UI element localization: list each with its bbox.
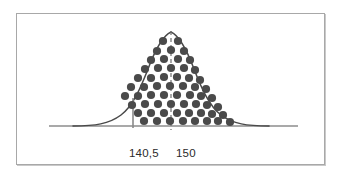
dot [147, 74, 155, 82]
dot [160, 73, 168, 81]
dot [167, 46, 175, 54]
dot [141, 65, 149, 73]
dot [186, 91, 194, 99]
x-tick-label-150: 150 [176, 147, 196, 159]
dot [159, 37, 167, 45]
figure-frame: 140,5 150 [16, 13, 325, 165]
dot [128, 101, 136, 109]
dot [180, 47, 188, 55]
x-tick-label-140-5: 140,5 [129, 147, 159, 159]
dot [214, 117, 222, 125]
dot [140, 83, 148, 91]
dot [208, 110, 216, 118]
dot [154, 100, 162, 108]
dot [174, 55, 182, 63]
dot [197, 109, 205, 117]
dot [173, 73, 181, 81]
dot [180, 100, 188, 108]
dot [191, 117, 199, 125]
dot [134, 92, 142, 100]
dot [153, 82, 161, 90]
dot [173, 109, 181, 117]
dot [127, 83, 135, 91]
dot [192, 100, 200, 108]
figure-root: 140,5 150 [0, 0, 341, 176]
dot [191, 66, 199, 74]
dot [134, 109, 142, 117]
dot [196, 76, 204, 84]
dot [226, 118, 234, 126]
dot [160, 91, 168, 99]
dot [154, 64, 162, 72]
dot [203, 117, 211, 125]
dot [160, 109, 168, 117]
dot [166, 82, 174, 90]
dot [134, 74, 142, 82]
dot [147, 91, 155, 99]
dot [214, 103, 222, 111]
dot [167, 100, 175, 108]
dot [197, 92, 205, 100]
dot [167, 64, 175, 72]
dot [191, 83, 199, 91]
dot [179, 117, 187, 125]
dot [147, 56, 155, 64]
dot [147, 109, 155, 117]
dot [202, 85, 210, 93]
dot-plot-group [121, 37, 234, 126]
dot [140, 117, 148, 125]
dot [174, 37, 182, 45]
normal-distribution-dot-plot [17, 14, 324, 164]
dot [179, 82, 187, 90]
dot [166, 117, 174, 125]
dot [186, 56, 194, 64]
dot [153, 117, 161, 125]
dot [185, 109, 193, 117]
dot [141, 100, 149, 108]
dot [203, 101, 211, 109]
dot [153, 47, 161, 55]
dot [208, 94, 216, 102]
dot [180, 64, 188, 72]
dot [121, 92, 129, 100]
dot [185, 74, 193, 82]
dot [173, 91, 181, 99]
dot [160, 55, 168, 63]
